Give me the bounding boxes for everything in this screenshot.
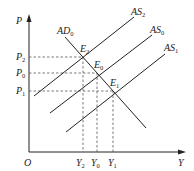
price-axis-arrow-icon (27, 14, 32, 22)
y0-label: Y0 (91, 157, 100, 169)
as1-label: AS1 (163, 42, 178, 54)
e0-label: E0 (93, 59, 103, 71)
output-axis-arrow-icon (178, 150, 186, 155)
p1-label: P1 (15, 85, 25, 97)
ad0-curve (65, 37, 146, 128)
output-axis-label: Y (178, 157, 185, 168)
e1-label: E1 (109, 77, 119, 89)
e2-label: E2 (79, 43, 89, 55)
p2-label: P2 (15, 51, 25, 63)
p0-label: P0 (15, 67, 25, 79)
y1-label: Y1 (108, 157, 117, 169)
as0-label: AS0 (149, 24, 164, 36)
as2-label: AS2 (130, 6, 145, 18)
as0-curve (50, 35, 152, 113)
price-axis-label: P (15, 15, 22, 26)
ad-as-diagram: P Y O P2 P0 P1 Y2 Y0 Y1 AD0 AS2 AS0 AS1 … (0, 0, 194, 171)
as1-curve (66, 54, 165, 132)
ad0-label: AD0 (56, 25, 74, 37)
origin-label: O (24, 157, 31, 168)
y2-label: Y2 (76, 157, 85, 169)
